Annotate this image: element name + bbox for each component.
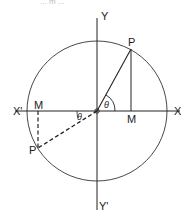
unit-circle-diagram: ... m ... Y Y' X X' P M M P θ θ <box>0 0 193 216</box>
label-p-prime: P <box>29 144 36 156</box>
label-p: P <box>128 36 135 48</box>
label-x: X <box>174 105 182 117</box>
label-y: Y <box>101 10 109 22</box>
label-m-prime: M <box>34 99 43 111</box>
label-theta-2: θ <box>77 112 82 122</box>
radius-op <box>97 49 131 111</box>
label-theta: θ <box>104 100 109 110</box>
label-y-prime: Y' <box>99 200 108 212</box>
radius-op-prime-dashed <box>38 111 97 148</box>
label-x-prime: X' <box>13 105 22 117</box>
label-m: M <box>127 113 136 125</box>
top-fragment-text: ... m ... <box>40 0 64 6</box>
